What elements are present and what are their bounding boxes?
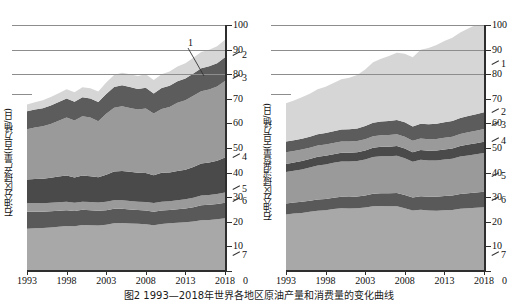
series-callout-6: 6 (501, 195, 506, 205)
gridline-90 (271, 50, 484, 51)
y-tick-label-70: 70 (233, 94, 243, 104)
x-tick-label-2003: 2003 (355, 275, 375, 286)
gridline-stub-72 (271, 94, 291, 95)
gridline-100 (12, 25, 225, 26)
y-tick-80 (225, 74, 232, 75)
y-tick-label-100: 100 (233, 20, 248, 30)
y-tick-label-40: 40 (233, 168, 243, 178)
x-axis-line-right (286, 270, 485, 272)
y-tick-50 (484, 148, 491, 149)
inner-callout-1: 1 (188, 38, 193, 48)
y-tick-label-20: 20 (492, 217, 502, 227)
series-callout-3: 3 (501, 120, 506, 130)
x-axis-line-left (27, 270, 226, 272)
plot-area-right (286, 25, 484, 271)
x-tick-label-2008: 2008 (136, 275, 156, 286)
figure-caption: 图2 1993—2018年世界各地区原油产量和消费量的变化曲线 (0, 287, 518, 301)
x-tick-label-2013: 2013 (175, 275, 195, 286)
x-tick-label-2013: 2013 (434, 275, 454, 286)
y-tick-label-100: 100 (492, 20, 507, 30)
chart-panel-right: 石油分区域消费量(百万桶/日) 102030405060708090100 19… (259, 0, 518, 288)
gridline-100 (271, 25, 484, 26)
y-tick-label-60: 60 (233, 118, 243, 128)
gridline-stub-72 (12, 94, 32, 95)
figure-oil-production-consumption: 石油分区域产量(百万桶/日) 102030405060708090100 199… (0, 0, 518, 301)
area-band-7 (286, 206, 484, 271)
y-tick-50 (225, 148, 232, 149)
series-callout-1: 1 (501, 59, 506, 69)
series-callout-7: 7 (501, 250, 506, 260)
series-callout-leader-4 (233, 153, 243, 162)
y-tick-90 (225, 50, 232, 51)
y-tick-60 (484, 123, 491, 124)
y-axis-label-right: 石油分区域消费量(百万桶/日) (260, 62, 274, 262)
x-axis-zero-label-right: 0 (502, 275, 507, 286)
y-tick-90 (484, 50, 491, 51)
y-tick-0 (484, 271, 491, 272)
y-tick-100 (225, 25, 232, 26)
x-tick-label-1993: 1993 (276, 275, 296, 286)
y-axis-label-left: 石油分区域产量(百万桶/日) (1, 62, 15, 262)
y-tick-10 (225, 246, 232, 247)
y-tick-20 (225, 222, 232, 223)
inner-callout-leader-1 (186, 48, 216, 83)
series-callout-6: 6 (242, 196, 247, 206)
series-callout-7: 7 (242, 250, 247, 260)
x-tick-label-1998: 1998 (316, 275, 336, 286)
y-tick-label-70: 70 (492, 94, 502, 104)
y-tick-30 (484, 197, 491, 198)
series-callout-5: 5 (501, 171, 506, 181)
y-tick-20 (484, 222, 491, 223)
series-callout-leader-7 (492, 251, 502, 260)
y-tick-label-90: 90 (492, 45, 502, 55)
chart-panel-left: 石油分区域产量(百万桶/日) 102030405060708090100 199… (0, 0, 259, 288)
y-tick-60 (225, 123, 232, 124)
x-tick-label-2018: 2018 (474, 275, 494, 286)
x-tick-label-2003: 2003 (96, 275, 116, 286)
y-tick-label-80: 80 (492, 69, 502, 79)
y-tick-100 (484, 25, 491, 26)
series-callout-4: 4 (501, 136, 506, 146)
y-tick-40 (484, 173, 491, 174)
y-tick-10 (484, 246, 491, 247)
y-tick-80 (484, 74, 491, 75)
y-tick-70 (225, 99, 232, 100)
series-callout-5: 5 (242, 184, 247, 194)
series-callout-4: 4 (242, 152, 247, 162)
y-tick-0 (225, 271, 232, 272)
stacked-area-right (286, 25, 484, 271)
series-callout-3: 3 (242, 73, 247, 83)
x-tick-label-2008: 2008 (395, 275, 415, 286)
x-tick-label-2018: 2018 (215, 275, 235, 286)
series-callout-leader-2 (492, 109, 502, 118)
y-tick-30 (225, 197, 232, 198)
x-axis-zero-label-left: 0 (243, 275, 248, 286)
x-tick-label-1993: 1993 (17, 275, 37, 286)
gridline-80 (271, 74, 484, 75)
x-tick-label-1998: 1998 (57, 275, 77, 286)
y-tick-label-20: 20 (233, 217, 243, 227)
series-callout-2: 2 (501, 107, 506, 117)
series-callout-leader-7 (233, 251, 243, 260)
series-callout-2: 2 (242, 50, 247, 60)
y-tick-40 (225, 173, 232, 174)
y-tick-70 (484, 99, 491, 100)
